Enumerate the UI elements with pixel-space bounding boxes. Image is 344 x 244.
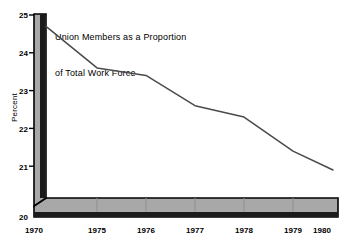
y-axis-column-edge [40, 14, 45, 198]
chart-container: Percent 25 24 23 22 21 20 1970 1975 1976… [0, 0, 344, 244]
data-series-line [46, 26, 333, 170]
y-axis-column-block [34, 14, 46, 206]
x-axis-base-lip [34, 212, 338, 217]
plot-area [0, 0, 344, 244]
x-axis-base-block [34, 198, 338, 217]
